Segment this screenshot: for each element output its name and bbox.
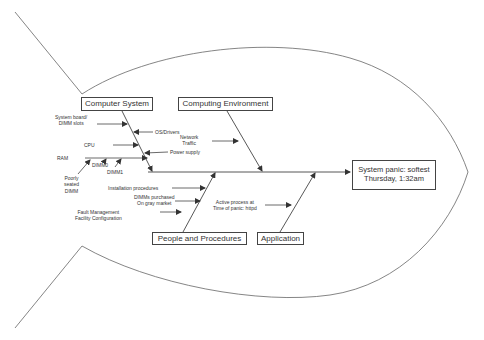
- cause-ram: RAM: [57, 155, 68, 161]
- bone-application: [280, 173, 315, 232]
- cause-cpu: CPU: [84, 142, 95, 148]
- cause-gray-market: DIMMs purchased On gray market: [134, 194, 175, 207]
- cause-power-supply: Power supply: [170, 149, 200, 155]
- effect-line-2: Thursday, 1:32am: [364, 175, 424, 184]
- tail-lower-fin: [15, 246, 82, 328]
- cause-os-drivers: OS/Drivers: [155, 129, 179, 135]
- cause-dimm1: DIMM1: [107, 169, 123, 175]
- bone-people-procedures: [183, 173, 215, 232]
- cause-poorly-seated-dimm: Poorly seated DIMM: [64, 175, 79, 194]
- cause-installation-procedures: Installation procedures: [108, 185, 158, 191]
- arrow-power-supply: [145, 152, 168, 153]
- bone-computer-system: [122, 111, 152, 171]
- category-computer-system: Computer System: [81, 97, 153, 111]
- cause-system-board: System board/ DIMM slots: [55, 114, 87, 127]
- cause-fault-management: Fault Management Facility Configuration: [75, 209, 122, 222]
- effect-box: System panic: softest Thursday, 1:32am: [352, 160, 436, 190]
- cause-network-traffic: Network Traffic: [180, 134, 198, 147]
- main-bones: [122, 111, 315, 232]
- cause-active-process: Active process at Time of panic: httpd: [213, 199, 257, 212]
- cause-dimm0: DIMM0: [92, 162, 108, 168]
- arrow-poorly-seated: [78, 160, 90, 174]
- arrow-dimm1: [115, 159, 121, 167]
- tail-upper-fin: [15, 12, 82, 94]
- category-computing-environment: Computing Environment: [178, 97, 273, 111]
- category-application: Application: [257, 232, 304, 245]
- category-people-procedures: People and Procedures: [152, 232, 247, 245]
